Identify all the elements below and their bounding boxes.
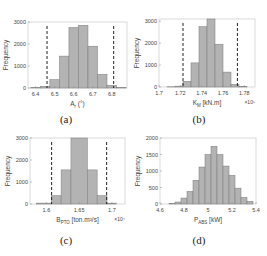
histogram-bar [207,19,215,87]
caption-c: (c) [46,234,86,246]
histogram-bar [235,188,241,204]
histogram-bar [241,197,247,204]
histogram-bar [69,28,79,89]
panel-b: 1.71.721.741.761.780100020003000Frequenc… [133,0,267,128]
x-tick-label: 1.74 [196,90,207,96]
y-tick-label: 1000 [146,168,158,174]
caption-a: (a) [46,113,86,125]
histogram-bar [88,46,98,88]
panel-c: 1.61.651.70100020003000FrequencyBPTO [to… [0,128,133,256]
x-tick-label: 5.2 [228,207,236,213]
histogram-bar [40,86,50,88]
histogram-bar [97,74,107,88]
x-tick-label: 1.7 [155,90,163,96]
histogram-bar [205,155,211,205]
y-axis-label: Frequency [134,155,142,186]
histogram-bar [247,201,253,204]
x-tick-label: 6.7 [89,91,97,97]
histogram-bar [193,180,199,204]
x-axis-label: PABS [kW] [194,216,222,225]
x-tick-label: 1.76 [218,90,229,96]
y-tick-label: 1000 [14,63,26,69]
histogram-bar [78,25,88,88]
y-tick-label: 3000 [145,18,157,24]
y-tick-label: 0 [23,85,26,91]
x-axis-label: BPTO [ton.m²/s] [56,216,99,225]
caption-d: (d) [179,234,219,246]
histogram-bar [199,27,207,87]
x-axis-label: Ar (°) [70,100,85,109]
x-tick-label: 6.5 [51,91,59,97]
y-tick-label: 2000 [145,40,157,46]
x-tick-label: 5 [206,207,209,213]
y-axis-label: Frequency [4,155,12,186]
histogram-bar [97,196,107,204]
x-axis-label: KM [kN.m] [193,99,222,108]
x-tick-label: 5.4 [252,207,260,213]
histogram-bar [187,191,193,204]
histogram-bar [59,56,69,88]
histogram-a: 6.46.56.66.76.80100020003000FrequencyAr … [0,0,133,110]
histogram-bar [175,86,183,87]
histogram-bar [61,170,71,204]
histogram-bar [239,86,247,87]
y-tick-label: 1000 [16,179,28,185]
histogram-bar [229,175,235,204]
x-axis-exponent: ×10⁴ [114,216,125,222]
x-tick-label: 4.8 [180,207,188,213]
x-axis-exponent: ×10⁵ [244,99,255,105]
histogram-bar [217,155,223,205]
y-tick-label: 0 [25,201,28,207]
y-tick-label: 3000 [14,19,26,25]
histogram-d: 4.64.855.25.40500100015002000FrequencyPA… [133,128,267,238]
y-axis-label: Frequency [2,39,10,70]
x-tick-label: 6.6 [70,91,78,97]
x-tick-label: 1.65 [74,207,85,213]
panel-d: 4.64.855.25.40500100015002000FrequencyPA… [133,128,267,256]
x-tick-label: 1.6 [43,207,51,213]
histogram-bar [223,72,231,87]
y-tick-label: 2000 [14,41,26,47]
x-tick-label: 1.72 [175,90,186,96]
histogram-bar [191,63,199,87]
histogram-bar [51,196,61,204]
histogram-bar [211,146,217,204]
y-tick-label: 2000 [146,135,158,141]
y-tick-label: 500 [149,185,158,191]
histogram-bar [37,203,52,204]
y-tick-label: 0 [154,84,157,90]
x-tick-label: 6.4 [32,91,40,97]
y-tick-label: 2000 [16,157,28,163]
x-tick-label: 6.8 [108,91,116,97]
histogram-bar [199,167,205,204]
y-tick-label: 0 [155,201,158,207]
histogram-bar [175,202,181,204]
histogram-bar [183,81,191,87]
y-tick-label: 3000 [16,135,28,141]
histogram-b: 1.71.721.741.761.780100020003000Frequenc… [133,0,267,110]
histogram-bar [215,44,223,87]
x-tick-label: 1.78 [239,90,250,96]
x-tick-label: 1.7 [108,207,116,213]
panel-a: 6.46.56.66.76.80100020003000FrequencyAr … [0,0,133,128]
histogram-c: 1.61.651.70100020003000FrequencyBPTO [to… [0,128,133,238]
caption-b: (b) [179,113,219,125]
histogram-bar [87,170,97,204]
y-tick-label: 1500 [146,152,158,158]
histogram-bar [223,166,229,204]
y-tick-label: 1000 [145,62,157,68]
y-axis-label: Frequency [133,37,141,68]
x-tick-label: 4.6 [156,207,164,213]
histogram-bar [71,138,87,204]
